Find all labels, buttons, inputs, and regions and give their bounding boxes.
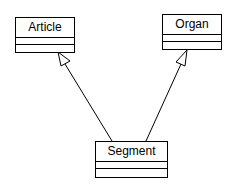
operations-compartment	[96, 169, 167, 175]
operations-compartment	[16, 45, 74, 51]
class-name: Article	[16, 18, 74, 38]
class-name: Segment	[96, 142, 167, 162]
attributes-compartment	[96, 162, 167, 169]
attributes-compartment	[163, 35, 221, 42]
class-name: Organ	[163, 15, 221, 35]
operations-compartment	[163, 42, 221, 48]
class-organ[interactable]: Organ	[162, 14, 222, 50]
class-segment[interactable]: Segment	[95, 141, 168, 178]
generalization-segment-organ	[146, 50, 187, 141]
class-article[interactable]: Article	[15, 17, 75, 53]
attributes-compartment	[16, 38, 74, 45]
generalization-segment-article	[58, 52, 112, 141]
